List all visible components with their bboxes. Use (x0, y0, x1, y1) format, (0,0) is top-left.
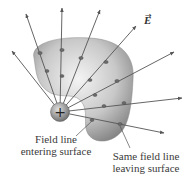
leaving-label: Same field line leaving surface (105, 150, 187, 174)
charge-plus-sign: + (54, 104, 66, 120)
vector-arrow-accent: → (145, 11, 152, 20)
gauss-surface-diagram: + E → Field line entering surface Same f… (0, 0, 191, 182)
entering-label: Field line entering surface (20, 133, 92, 157)
